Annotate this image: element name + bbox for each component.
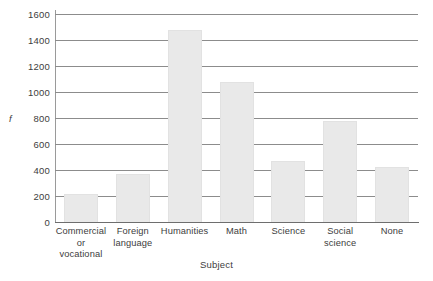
x-tick-label-line: Foreign	[107, 226, 159, 238]
bar	[220, 82, 254, 222]
y-tick-label: 800	[34, 113, 50, 124]
y-axis-title: f	[9, 113, 12, 124]
x-tick-label: Science	[262, 226, 314, 238]
y-tick-label: 0	[45, 217, 50, 228]
x-tick-label-line: Science	[262, 226, 314, 238]
x-tick-label-line: language	[107, 238, 159, 250]
x-tick-label-line: or	[55, 238, 107, 250]
gridline	[55, 14, 418, 15]
x-tick-label-line: science	[314, 238, 366, 250]
y-tick-label: 1200	[28, 61, 50, 72]
y-tick-label: 1600	[28, 9, 50, 20]
y-tick-label: 1400	[28, 35, 50, 46]
bar-chart-figure: f 02004006008001000120014001600 Commerci…	[0, 0, 433, 281]
x-tick-label-line: Commercial	[55, 226, 107, 238]
x-axis-title: Subject	[0, 259, 433, 270]
y-tick-label: 600	[34, 139, 50, 150]
gridline	[55, 66, 418, 67]
bar	[116, 174, 150, 222]
x-tick-label-line: Math	[211, 226, 263, 238]
plot-area	[55, 14, 418, 222]
y-tick-label: 1000	[28, 87, 50, 98]
x-tick-label: Humanities	[159, 226, 211, 238]
bar	[375, 167, 409, 222]
gridline	[55, 40, 418, 41]
bar	[323, 121, 357, 222]
bar	[168, 30, 202, 222]
x-tick-label: Commercialorvocational	[55, 226, 107, 261]
x-tick-label-line: Humanities	[159, 226, 211, 238]
x-tick-label: None	[366, 226, 418, 238]
y-tick-label: 200	[34, 191, 50, 202]
x-axis-line	[55, 222, 419, 223]
y-tick-label: 400	[34, 165, 50, 176]
x-tick-label: Socialscience	[314, 226, 366, 249]
x-tick-label: Foreignlanguage	[107, 226, 159, 249]
x-tick-label: Math	[211, 226, 263, 238]
x-tick-label-line: None	[366, 226, 418, 238]
bar	[271, 161, 305, 222]
x-tick-label-line: Social	[314, 226, 366, 238]
bar	[64, 194, 98, 222]
